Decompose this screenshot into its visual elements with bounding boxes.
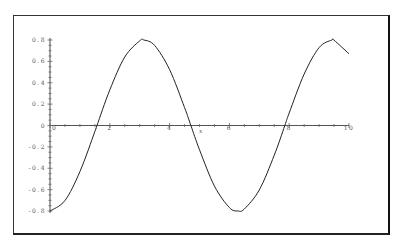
x-tick-label: 8 (287, 124, 292, 131)
y-tick-label: -0.8 (28, 207, 46, 214)
y-tick-label: 0.6 (32, 57, 46, 64)
y-tick-label: 0.2 (32, 100, 46, 107)
x-axis-label: x (199, 127, 203, 134)
x-tick-label: 6 (227, 124, 232, 131)
x-tick-label: 4 (167, 124, 172, 131)
y-tick-label: 0.4 (32, 79, 46, 86)
x-tick-label: 0 (52, 124, 57, 131)
y-tick-label: 0 (41, 122, 46, 129)
y-tick-label: -0.2 (28, 143, 46, 150)
y-tick-label: -0.6 (28, 186, 46, 193)
y-tick-label: 0.8 (32, 36, 46, 43)
x-tick-label: 10 (344, 124, 355, 131)
y-tick-label: -0.4 (28, 164, 46, 171)
chart: 02468100.80.60.40.20-0.2-0.4-0.6-0.8 x (0, 0, 399, 247)
x-tick-label: 2 (107, 124, 112, 131)
